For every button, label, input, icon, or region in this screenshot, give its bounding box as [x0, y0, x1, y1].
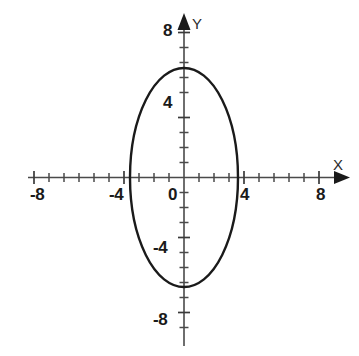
- graph-figure: -8 -4 0 4 8 8 4 -4 -8 X Y: [0, 0, 359, 356]
- y-tick-label-neg4: -4: [153, 239, 167, 256]
- y-tick-label-neg8: -8: [153, 311, 167, 328]
- x-tick-label-8: 8: [316, 186, 325, 203]
- x-axis-label: X: [333, 157, 343, 172]
- x-tick-label-4: 4: [240, 186, 249, 203]
- x-tick-label-neg4: -4: [109, 186, 123, 203]
- coordinate-plane-svg: [0, 0, 359, 356]
- origin-label: 0: [168, 186, 177, 203]
- y-tick-label-8: 8: [163, 22, 172, 39]
- y-axis-arrow-icon: [178, 13, 191, 30]
- y-tick-label-4: 4: [163, 94, 172, 111]
- y-axis-label: Y: [192, 16, 202, 31]
- x-tick-label-neg8: -8: [30, 186, 44, 203]
